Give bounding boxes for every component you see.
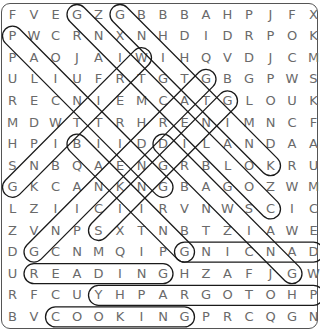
letter-cell[interactable]: A: [153, 285, 173, 305]
letter-cell[interactable]: B: [67, 134, 87, 154]
letter-cell[interactable]: F: [239, 264, 259, 284]
letter-cell[interactable]: K: [110, 177, 130, 197]
letter-cell[interactable]: C: [89, 199, 109, 219]
letter-cell[interactable]: O: [239, 177, 259, 197]
letter-cell[interactable]: D: [239, 48, 259, 68]
letter-cell[interactable]: L: [24, 69, 44, 89]
letter-cell[interactable]: F: [3, 5, 23, 25]
letter-cell[interactable]: T: [239, 285, 259, 305]
letter-cell[interactable]: B: [218, 69, 238, 89]
letter-cell[interactable]: A: [218, 264, 238, 284]
letter-cell[interactable]: N: [132, 264, 152, 284]
letter-cell[interactable]: W: [282, 177, 302, 197]
letter-cell[interactable]: H: [282, 285, 302, 305]
letter-cell[interactable]: D: [153, 134, 173, 154]
letter-cell[interactable]: G: [175, 307, 195, 327]
letter-cell[interactable]: O: [282, 26, 302, 46]
letter-cell[interactable]: G: [282, 307, 302, 327]
letter-cell[interactable]: P: [24, 134, 44, 154]
letter-cell[interactable]: A: [196, 177, 216, 197]
letter-cell[interactable]: E: [46, 5, 66, 25]
letter-cell[interactable]: O: [89, 307, 109, 327]
letter-cell[interactable]: C: [46, 307, 66, 327]
letter-cell[interactable]: P: [239, 5, 259, 25]
letter-cell[interactable]: U: [67, 69, 87, 89]
letter-cell[interactable]: I: [110, 134, 130, 154]
letter-cell[interactable]: R: [239, 26, 259, 46]
letter-cell[interactable]: A: [282, 134, 302, 154]
letter-cell[interactable]: P: [196, 307, 216, 327]
letter-cell[interactable]: M: [304, 177, 320, 197]
letter-cell[interactable]: R: [175, 156, 195, 176]
letter-cell[interactable]: M: [3, 113, 23, 133]
letter-cell[interactable]: N: [153, 307, 173, 327]
letter-cell[interactable]: O: [261, 285, 281, 305]
letter-cell[interactable]: R: [175, 285, 195, 305]
letter-cell[interactable]: O: [239, 156, 259, 176]
letter-cell[interactable]: P: [3, 48, 23, 68]
letter-cell[interactable]: A: [196, 5, 216, 25]
letter-cell[interactable]: C: [282, 48, 302, 68]
letter-cell[interactable]: Z: [3, 221, 23, 241]
letter-cell[interactable]: H: [175, 48, 195, 68]
letter-cell[interactable]: C: [261, 199, 281, 219]
letter-cell[interactable]: N: [239, 134, 259, 154]
letter-cell[interactable]: L: [3, 199, 23, 219]
letter-cell[interactable]: H: [175, 264, 195, 284]
letter-cell[interactable]: I: [175, 134, 195, 154]
letter-cell[interactable]: N: [196, 199, 216, 219]
letter-cell[interactable]: I: [196, 26, 216, 46]
letter-cell[interactable]: E: [46, 264, 66, 284]
letter-cell[interactable]: D: [261, 134, 281, 154]
letter-cell[interactable]: N: [196, 242, 216, 262]
letter-cell[interactable]: N: [46, 221, 66, 241]
letter-cell[interactable]: B: [3, 307, 23, 327]
letter-cell[interactable]: V: [24, 221, 44, 241]
letter-cell[interactable]: R: [3, 91, 23, 111]
letter-cell[interactable]: N: [196, 113, 216, 133]
letter-cell[interactable]: N: [132, 156, 152, 176]
letter-cell[interactable]: L: [196, 134, 216, 154]
letter-cell[interactable]: X: [110, 26, 130, 46]
letter-cell[interactable]: I: [218, 113, 238, 133]
letter-cell[interactable]: D: [304, 242, 320, 262]
letter-cell[interactable]: I: [46, 134, 66, 154]
letter-cell[interactable]: X: [110, 221, 130, 241]
letter-cell[interactable]: I: [110, 48, 130, 68]
letter-cell[interactable]: D: [175, 26, 195, 46]
letter-cell[interactable]: G: [218, 91, 238, 111]
letter-cell[interactable]: J: [261, 48, 281, 68]
letter-cell[interactable]: R: [67, 26, 87, 46]
letter-cell[interactable]: I: [67, 199, 87, 219]
letter-cell[interactable]: P: [261, 26, 281, 46]
letter-cell[interactable]: G: [218, 177, 238, 197]
letter-cell[interactable]: X: [304, 5, 320, 25]
letter-cell[interactable]: T: [132, 69, 152, 89]
letter-cell[interactable]: W: [46, 113, 66, 133]
letter-cell[interactable]: A: [89, 48, 109, 68]
letter-cell[interactable]: D: [3, 242, 23, 262]
letter-cell[interactable]: T: [89, 113, 109, 133]
letter-cell[interactable]: U: [3, 69, 23, 89]
letter-cell[interactable]: P: [261, 69, 281, 89]
letter-cell[interactable]: E: [24, 91, 44, 111]
letter-cell[interactable]: O: [67, 307, 87, 327]
letter-cell[interactable]: I: [89, 91, 109, 111]
letter-cell[interactable]: N: [304, 307, 320, 327]
letter-cell[interactable]: S: [3, 156, 23, 176]
letter-cell[interactable]: M: [132, 91, 152, 111]
letter-cell[interactable]: I: [132, 242, 152, 262]
letter-cell[interactable]: F: [89, 69, 109, 89]
letter-cell[interactable]: T: [175, 69, 195, 89]
letter-cell[interactable]: I: [218, 242, 238, 262]
letter-cell[interactable]: V: [218, 48, 238, 68]
letter-cell[interactable]: G: [239, 69, 259, 89]
letter-cell[interactable]: D: [89, 264, 109, 284]
letter-cell[interactable]: N: [67, 91, 87, 111]
letter-cell[interactable]: A: [24, 48, 44, 68]
letter-cell[interactable]: N: [132, 26, 152, 46]
letter-cell[interactable]: B: [175, 5, 195, 25]
letter-cell[interactable]: N: [261, 113, 281, 133]
letter-cell[interactable]: C: [46, 177, 66, 197]
letter-cell[interactable]: E: [110, 91, 130, 111]
